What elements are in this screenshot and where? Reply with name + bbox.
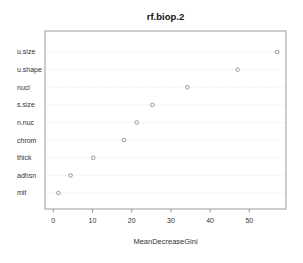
data-point-s.size	[151, 103, 155, 107]
x-tick-label-20: 20	[128, 217, 136, 224]
y-label-n.nuc: n.nuc	[17, 119, 35, 126]
x-tick-label-0: 0	[51, 217, 55, 224]
y-axis-labels: u.sizeu.shapenucls.sizen.nucchromthickad…	[17, 48, 42, 196]
y-label-u.size: u.size	[17, 48, 35, 55]
y-label-chrom: chrom	[17, 137, 37, 144]
data-point-thick	[91, 156, 95, 160]
y-label-mit: mit	[17, 189, 26, 196]
chart-title: rf.biop.2	[147, 11, 184, 22]
plot-area	[45, 31, 286, 209]
data-point-nucl	[186, 85, 190, 89]
y-label-u.shape: u.shape	[17, 66, 42, 74]
data-point-mit	[57, 191, 61, 195]
x-tick-label-50: 50	[245, 217, 253, 224]
dotchart-svg: rf.biop.2 u.sizeu.shapenucls.sizen.nucch…	[0, 0, 303, 263]
y-label-s.size: s.size	[17, 101, 35, 108]
x-tick-label-30: 30	[167, 217, 175, 224]
plot-box	[45, 31, 286, 209]
y-label-thick: thick	[17, 154, 32, 161]
y-label-nucl: nucl	[17, 84, 30, 91]
x-tick-label-40: 40	[206, 217, 214, 224]
data-point-chrom	[122, 138, 126, 142]
data-point-u.shape	[236, 68, 240, 72]
x-axis: 01020304050	[51, 209, 253, 224]
data-point-u.size	[275, 50, 279, 54]
data-point-adhsn	[69, 174, 73, 178]
data-point-n.nuc	[135, 121, 139, 125]
chart-figure: rf.biop.2 u.sizeu.shapenucls.sizen.nucch…	[0, 0, 303, 263]
y-label-adhsn: adhsn	[17, 172, 36, 179]
x-tick-label-10: 10	[89, 217, 97, 224]
x-axis-label: MeanDecreaseGini	[133, 237, 198, 246]
